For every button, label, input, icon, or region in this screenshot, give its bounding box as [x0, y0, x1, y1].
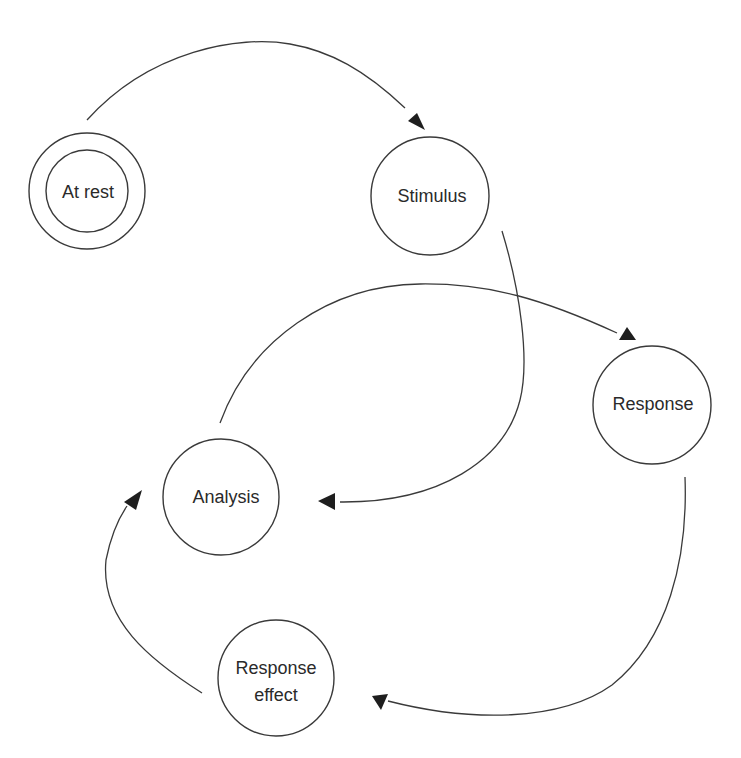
edge-stimulus-to-analysis — [318, 231, 524, 510]
node-circle — [218, 620, 334, 736]
node-label: Analysis — [192, 487, 259, 507]
arrowhead-icon — [408, 113, 425, 130]
arrowhead-icon — [619, 327, 636, 340]
node-label: Stimulus — [397, 186, 466, 206]
node-label: At rest — [62, 182, 114, 202]
node-label: Response — [612, 394, 693, 414]
node-analysis: Analysis — [163, 439, 279, 555]
node-at-rest: At rest — [29, 133, 145, 249]
arrowhead-icon — [318, 493, 335, 510]
edge-analysis-to-response — [220, 284, 636, 423]
state-diagram: At rest Stimulus Response Analysis Respo… — [0, 0, 741, 758]
node-label-line-1: Response — [235, 658, 316, 678]
edge-at-rest-to-stimulus — [87, 42, 425, 130]
node-label-line-2: effect — [254, 685, 298, 705]
arrowhead-icon — [372, 694, 388, 710]
edge-response-to-response-effect — [372, 477, 685, 715]
node-stimulus: Stimulus — [371, 137, 489, 255]
node-response-effect: Response effect — [218, 620, 334, 736]
edge-response-effect-to-analysis — [106, 490, 202, 693]
node-response: Response — [593, 346, 711, 464]
